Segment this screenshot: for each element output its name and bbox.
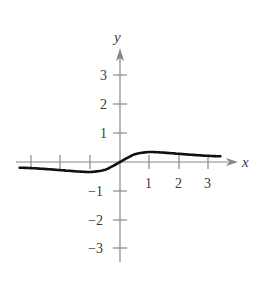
y-tick-label-3: 3	[100, 68, 107, 83]
y-tick-label-neg2: −2	[88, 213, 103, 228]
x-tick-label-1: 1	[145, 176, 152, 191]
y-tick-label-1: 1	[100, 126, 107, 141]
x-axis-label: x	[241, 154, 249, 170]
y-tick-label-neg1: −1	[88, 184, 103, 199]
x-tick-label-2: 2	[175, 176, 182, 191]
y-axis-label: y	[112, 29, 121, 45]
x-tick-label-3: 3	[204, 176, 211, 191]
chart: y x 1 2 3 3 2 1 −1 −2 −3	[0, 0, 265, 283]
y-tick-label-neg3: −3	[88, 241, 103, 256]
y-tick-label-2: 2	[100, 97, 107, 112]
